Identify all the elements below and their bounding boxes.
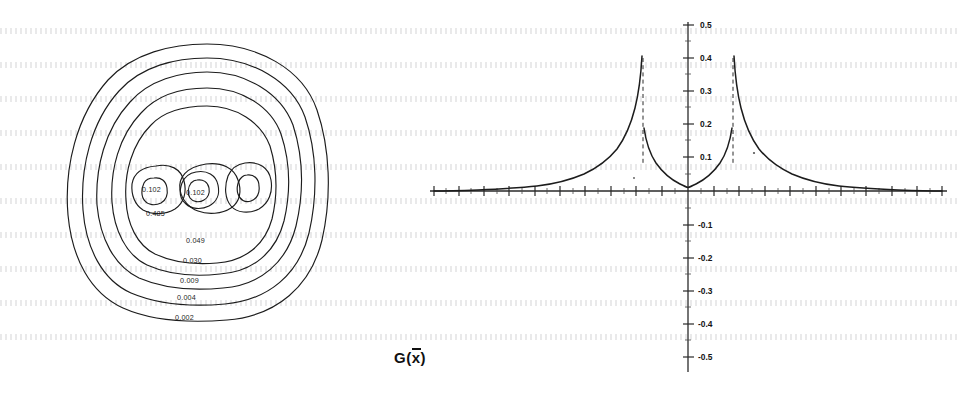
y-tick-label--0.4: -0.4	[698, 319, 713, 329]
contour-ring-2	[83, 58, 315, 305]
caption-variable: x	[412, 349, 421, 366]
contour-label-left-lobe: 0.102	[142, 185, 161, 194]
y-tick-label-0.3: 0.3	[700, 86, 712, 96]
contour-plot-panel: 0.102 0.102 0.485 0.049 0.030 0.009 0.00…	[0, 0, 420, 401]
y-tick-label-0.2: 0.2	[700, 119, 712, 129]
y-tick-label--0.2: -0.2	[698, 253, 713, 263]
contour-plot-svg: 0.102 0.102 0.485 0.049 0.030 0.009 0.00…	[0, 0, 420, 401]
contour-label-ring-1: 0.002	[175, 313, 194, 322]
caption-overline-var: x	[412, 349, 421, 366]
contour-label-ring-2: 0.004	[177, 293, 196, 302]
curve-right-outer-branch	[734, 56, 942, 191]
contour-ring-4	[112, 88, 289, 275]
curve-left-outer-branch	[434, 56, 642, 191]
overline-bar	[412, 348, 421, 350]
scan-speck	[633, 177, 635, 179]
profile-plot-svg: 0.5 0.4 0.3 0.2 0.1 -0.1 -0.2 -0.3 -0.4 …	[420, 0, 957, 401]
contour-label-ring-3: 0.009	[180, 276, 199, 285]
y-tick-label--0.3: -0.3	[698, 286, 713, 296]
contour-lobe-right-outer	[226, 163, 272, 212]
y-tick-label--0.1: -0.1	[698, 220, 713, 230]
contour-label-envelope: 0.485	[146, 209, 165, 218]
profile-plot-panel: 0.5 0.4 0.3 0.2 0.1 -0.1 -0.2 -0.3 -0.4 …	[420, 0, 957, 401]
contour-label-ring-5: 0.049	[186, 236, 205, 245]
y-tick-label-0.4: 0.4	[700, 53, 712, 63]
y-tick-label-0.5: 0.5	[700, 20, 712, 30]
contour-label-ring-4: 0.030	[183, 256, 202, 265]
caption-prefix: G(	[394, 349, 412, 366]
figure-container: 0.102 0.102 0.485 0.049 0.030 0.009 0.00…	[0, 0, 957, 401]
scan-speck	[753, 152, 755, 154]
caption-suffix: )	[421, 349, 427, 366]
contour-label-center-lobe: 0.102	[186, 188, 205, 197]
contour-lobe-right-inner	[237, 175, 259, 202]
y-tick-label-0.1: 0.1	[700, 152, 712, 162]
figure-caption: G(x)	[0, 349, 820, 366]
